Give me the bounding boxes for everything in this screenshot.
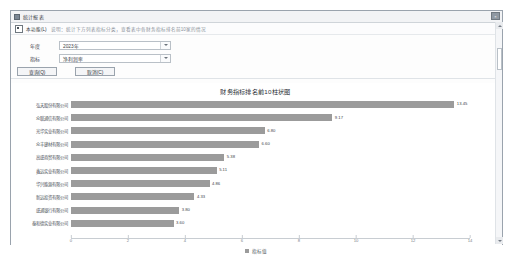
metric-value: 净利润率 — [60, 55, 83, 62]
bar-row: 新远投资有限公司4.33 — [71, 190, 470, 203]
bar-track: 3.60 — [71, 220, 470, 227]
bar-track: 4.86 — [71, 180, 470, 187]
bar-row: 高盛商贸有限公司5.38 — [71, 151, 470, 164]
x-axis-tick-label: 2 — [127, 238, 129, 243]
info-checkbox[interactable] — [15, 25, 23, 33]
bar-row: 弘天股份有限公司13.45 — [71, 98, 470, 111]
form-row-metric: 指标 净利润率 — [11, 53, 502, 63]
bar-category-label: 盛通银行有限公司 — [15, 207, 68, 213]
bar-track: 9.17 — [71, 114, 470, 121]
app-icon — [14, 14, 20, 20]
bar-row: 光华实业有限公司6.80 — [71, 124, 470, 137]
report-window: 统计报表 × 本功能(L) 说明：统计下方列表指标分类，查看表中各财务指标排名前… — [10, 10, 503, 245]
info-row: 本功能(L) 说明：统计下方列表指标分类，查看表中各财务指标排名前10家的情况 — [11, 23, 502, 35]
chevron-down-icon[interactable] — [160, 42, 170, 49]
x-axis-tick-label: 14 — [468, 238, 473, 243]
bar-category-label: 泰和德实业有限公司 — [15, 220, 68, 226]
x-axis-tick-label: 12 — [411, 238, 416, 243]
chart-title: 财务指标排名前10柱状图 — [15, 83, 496, 98]
bar-value-label: 4.33 — [194, 194, 205, 199]
bar[interactable] — [71, 141, 259, 148]
query-form: 年度 2023年 指标 净利润率 查询(Q) — [11, 35, 502, 83]
form-row-year: 年度 2023年 — [11, 40, 502, 50]
bar[interactable] — [71, 127, 265, 134]
bar-category-label: 鑫远实业有限公司 — [15, 168, 68, 174]
year-select[interactable]: 2023年 — [59, 41, 171, 50]
info-checkbox-label: 本功能(L) — [26, 26, 47, 32]
year-value: 2023年 — [60, 42, 79, 49]
bar-value-label: 3.80 — [179, 207, 190, 212]
bar-row: 众联通信有限公司9.17 — [71, 111, 470, 124]
bar-track: 6.80 — [71, 127, 470, 134]
bar-track: 5.38 — [71, 154, 470, 161]
bar-track: 6.60 — [71, 141, 470, 148]
bar[interactable] — [71, 220, 174, 227]
bar-value-label: 5.11 — [217, 167, 227, 172]
bar-row: 泰和德实业有限公司3.60 — [71, 217, 470, 230]
bar-track: 13.45 — [71, 101, 470, 108]
metric-select[interactable]: 净利润率 — [59, 54, 171, 63]
bar-value-label: 5.38 — [224, 154, 235, 159]
bar-track: 5.11 — [71, 167, 470, 174]
x-axis-tick-label: 4 — [184, 238, 186, 243]
bar[interactable] — [71, 207, 179, 214]
bar-value-label: 4.86 — [210, 181, 221, 186]
close-icon[interactable]: × — [491, 12, 500, 20]
x-axis-ticks: 02468101214 — [71, 238, 470, 247]
bar-track: 4.33 — [71, 193, 470, 200]
bar-value-label: 6.60 — [259, 141, 270, 146]
window-title: 统计报表 — [23, 13, 44, 20]
chevron-down-icon[interactable] — [160, 55, 170, 62]
bar-category-label: 新远投资有限公司 — [15, 194, 68, 200]
vertical-scrollbar[interactable] — [495, 22, 502, 244]
bar[interactable] — [71, 193, 194, 200]
x-axis-tick-label: 6 — [241, 238, 243, 243]
bar-track: 3.80 — [71, 207, 470, 214]
bar-category-label: 众丰建材有限公司 — [15, 141, 68, 147]
bar[interactable] — [71, 180, 210, 187]
scroll-up-icon[interactable] — [496, 22, 503, 29]
bar-chart-plot: 弘天股份有限公司13.45众联通信有限公司9.17光华实业有限公司6.80众丰建… — [71, 98, 470, 238]
chart-panel: 财务指标排名前10柱状图 弘天股份有限公司13.45众联通信有限公司9.17光华… — [11, 83, 502, 251]
cancel-button[interactable]: 取消(C) — [75, 67, 115, 76]
scrollbar-thumb[interactable] — [497, 48, 502, 70]
x-axis-tick-label: 8 — [298, 238, 300, 243]
bar[interactable] — [71, 167, 217, 174]
bar[interactable] — [71, 114, 332, 121]
chart-legend: 指标值 — [15, 248, 496, 254]
bar-row: 华兴能源有限公司4.86 — [71, 177, 470, 190]
bar[interactable] — [71, 101, 454, 108]
bar[interactable] — [71, 154, 224, 161]
bar-category-label: 华兴能源有限公司 — [15, 181, 68, 187]
form-buttons: 查询(Q) 取消(C) — [11, 66, 502, 76]
x-axis-tick-label: 10 — [354, 238, 359, 243]
bar-value-label: 6.80 — [265, 128, 276, 133]
bar-value-label: 9.17 — [332, 115, 343, 120]
bar-row: 鑫远实业有限公司5.11 — [71, 164, 470, 177]
window-title-bar: 统计报表 × — [11, 11, 502, 23]
bar-category-label: 光华实业有限公司 — [15, 128, 68, 134]
bar-category-label: 众联通信有限公司 — [15, 115, 68, 121]
form-divider — [11, 78, 502, 79]
legend-label: 指标值 — [252, 248, 267, 254]
info-note: 说明：统计下方列表指标分类，查看表中各财务指标排名前10家的情况 — [51, 26, 206, 32]
bar-category-label: 弘天股份有限公司 — [15, 102, 68, 108]
bar-row: 盛通银行有限公司3.80 — [71, 204, 470, 217]
scroll-down-icon[interactable] — [496, 237, 503, 244]
screen: 统计报表 × 本功能(L) 说明：统计下方列表指标分类，查看表中各财务指标排名前… — [0, 0, 513, 257]
bar-row: 众丰建材有限公司6.60 — [71, 138, 470, 151]
window-controls: × — [491, 12, 500, 20]
year-label: 年度 — [11, 42, 59, 49]
query-button[interactable]: 查询(Q) — [17, 67, 57, 76]
metric-label: 指标 — [11, 55, 59, 62]
bar-value-label: 3.60 — [174, 220, 185, 225]
x-axis-tick-label: 0 — [70, 238, 72, 243]
legend-swatch-icon — [245, 249, 249, 253]
bar-value-label: 13.45 — [454, 101, 467, 106]
bar-category-label: 高盛商贸有限公司 — [15, 154, 68, 160]
